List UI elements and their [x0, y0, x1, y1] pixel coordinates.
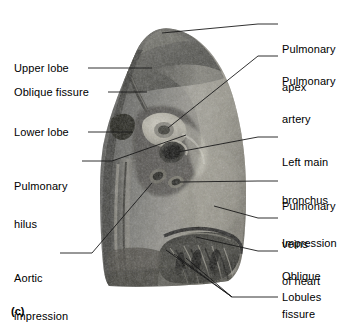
label-upper-lobe-line1: Upper lobe	[14, 62, 69, 74]
label-oblique-fissure-2: Oblique fissure	[282, 245, 321, 328]
label-oblique-fissure: Oblique fissure	[14, 86, 89, 99]
label-oblique-fissure-2-line1: Oblique	[282, 270, 321, 283]
panel-id: (c)	[11, 305, 24, 317]
label-lobules-line1: Lobules	[282, 291, 321, 303]
label-oblique-fissure-line1: Oblique fissure	[14, 86, 89, 98]
label-upper-lobe: Upper lobe	[14, 62, 69, 75]
label-lower-lobe: Lower lobe	[14, 126, 69, 139]
label-pulmonary-artery-line1: Pulmonary	[282, 75, 335, 88]
label-lobules: Lobules	[282, 291, 321, 304]
label-pulmonary-artery-line2: artery	[282, 113, 335, 126]
label-pulmonary-hilus-line1: Pulmonary	[14, 180, 67, 193]
label-pulmonary-hilus: Pulmonary hilus	[14, 155, 67, 243]
label-pulmonary-veins-line1: Pulmonary	[282, 200, 335, 213]
label-lower-lobe-line1: Lower lobe	[14, 126, 69, 138]
label-pulmonary-artery: Pulmonary artery	[282, 50, 335, 138]
label-pulmonary-hilus-line2: hilus	[14, 218, 67, 231]
label-aortic-impression-line1: Aortic	[14, 272, 68, 285]
label-oblique-fissure-2-line2: fissure	[282, 308, 321, 321]
label-left-main-bronchus-line1: Left main	[282, 156, 328, 169]
